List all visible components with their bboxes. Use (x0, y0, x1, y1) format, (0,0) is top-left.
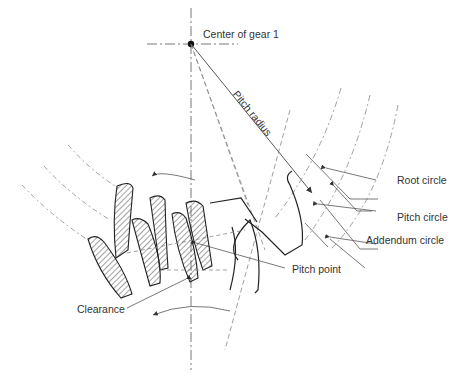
root-circle-label: Root circle (397, 174, 447, 186)
clearance-label: Clearance (77, 303, 125, 315)
pitch-circle-label: Pitch circle (397, 211, 448, 223)
addendum-circle-label: Addendum circle (366, 234, 444, 246)
center-lines (147, 8, 238, 370)
gear1-tooth (245, 171, 303, 255)
gear2-teeth (88, 183, 212, 298)
gear1-circles (275, 88, 398, 250)
gear-diagram (0, 0, 471, 383)
center-label: Center of gear 1 (203, 28, 279, 40)
pitch-point-label: Pitch point (292, 263, 341, 275)
